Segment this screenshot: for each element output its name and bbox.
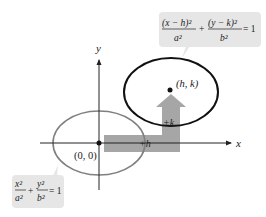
center-label: (h, k)	[176, 78, 199, 90]
eq1-num1: (x − h)²	[162, 18, 191, 29]
eq2-num1: x²	[14, 179, 22, 189]
ellipse-translation-diagram: x y (0, 0) (h, k) +h +k (x − h)² a² + (y…	[0, 0, 266, 217]
center-point	[168, 88, 173, 93]
eq1-den1: a²	[174, 33, 182, 43]
eq2-den2: b²	[37, 193, 45, 203]
eq2-equals: = 1	[49, 186, 62, 196]
eq1-num2: (y − k)²	[208, 18, 237, 29]
origin-point	[97, 141, 102, 146]
eq2-plus: +	[28, 186, 33, 196]
eq1-plus: +	[199, 24, 204, 34]
translated-equation-callout: (x − h)² a² + (y − k)² b² = 1	[159, 12, 261, 58]
eq1-den2: b²	[220, 33, 228, 43]
eq2-den1: a²	[15, 193, 23, 203]
x-axis-label: x	[235, 137, 241, 149]
horizontal-shift-label: +h	[139, 138, 151, 149]
standard-equation-callout: x² a² + y² b² = 1	[12, 165, 64, 208]
y-axis-label: y	[95, 42, 101, 54]
origin-label: (0, 0)	[74, 150, 97, 162]
eq2-num2: y²	[36, 179, 44, 189]
eq1-equals: = 1	[243, 24, 256, 34]
vertical-shift-label: +k	[163, 117, 175, 128]
